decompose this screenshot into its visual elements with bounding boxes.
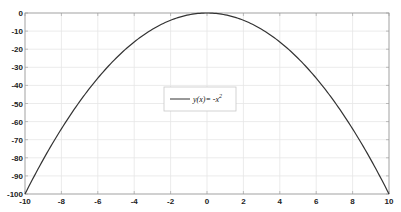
chart: -10-8-6-4-20246810 0-10-20-30-40-50-60-7… [0,0,401,212]
x-tick-label: 2 [241,197,246,206]
legend: y(x)= -x2 [164,87,236,111]
y-axis-ticks: 0-10-20-30-40-50-60-70-80-90-100 [7,9,24,199]
x-tick-label: -8 [58,197,66,206]
y-tick-label: -100 [7,190,24,199]
x-tick-label: 8 [350,197,355,206]
y-tick-label: -50 [11,100,23,109]
x-axis-ticks: -10-8-6-4-20246810 [19,197,394,206]
y-tick-label: -80 [11,154,23,163]
y-tick-label: -30 [11,63,23,72]
x-tick-label: -6 [94,197,102,206]
y-tick-label: -70 [11,136,23,145]
legend-label: y(x)= -x2 [192,93,222,104]
y-tick-label: -40 [11,81,23,90]
y-tick-label: -90 [11,172,23,181]
x-tick-label: 10 [385,197,394,206]
x-tick-label: 0 [205,197,210,206]
x-tick-label: -4 [131,197,139,206]
y-tick-label: -60 [11,118,23,127]
y-tick-label: 0 [19,9,24,18]
x-tick-label: 6 [314,197,319,206]
y-tick-label: -20 [11,45,23,54]
y-tick-label: -10 [11,27,23,36]
x-tick-label: -2 [167,197,175,206]
x-tick-label: 4 [278,197,283,206]
